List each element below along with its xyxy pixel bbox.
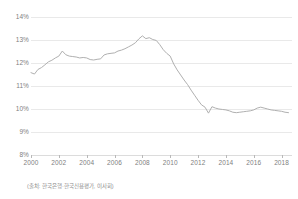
x-tick-label-2008: 2008 [135,160,150,167]
x-tick-mark-2002 [59,155,60,158]
source-note: (출처: 한국은행·한국신용평가, 이사회) [27,183,114,190]
x-tick-mark-2000 [31,155,32,158]
x-tick-label-2012: 2012 [191,160,206,167]
x-tick-mark-2012 [198,155,199,158]
x-tick-label-2000: 2000 [24,160,39,167]
y-tick-label-12: 12% [16,60,29,67]
y-axis: 14% 13% 12% 11% 10% 9% 8% [0,0,29,199]
x-tick-label-2016: 2016 [246,160,261,167]
y-tick-label-11: 11% [16,83,29,90]
x-tick-label-2010: 2010 [163,160,178,167]
x-tick-label-2006: 2006 [107,160,122,167]
line-chart-figure: 14% 13% 12% 11% 10% 9% 8% 20002002200420… [0,0,298,199]
x-tick-mark-2008 [142,155,143,158]
x-tick-mark-2016 [254,155,255,158]
x-tick-mark-2018 [282,155,283,158]
plot-area [31,17,292,155]
x-tick-label-2002: 2002 [51,160,66,167]
series-line [31,17,292,155]
y-tick-label-14: 14% [16,14,29,21]
x-tick-mark-2004 [87,155,88,158]
x-tick-mark-2006 [115,155,116,158]
y-tick-label-8: 8% [19,152,29,159]
x-axis: 2000200220042006200820102012201420162018 [31,160,292,174]
x-tick-label-2014: 2014 [218,160,233,167]
y-tick-label-13: 13% [16,37,29,44]
x-tick-label-2018: 2018 [274,160,289,167]
x-tick-label-2004: 2004 [79,160,94,167]
x-tick-mark-2014 [226,155,227,158]
y-tick-label-10: 10% [16,106,29,113]
x-tick-mark-2010 [170,155,171,158]
y-tick-label-9: 9% [19,129,29,136]
